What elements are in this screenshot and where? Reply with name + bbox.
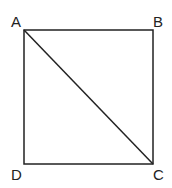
square-diagram: A B C D (0, 0, 172, 188)
diagonal-ac (24, 30, 153, 164)
vertex-label-a: A (11, 13, 21, 30)
vertex-label-c: C (153, 166, 164, 183)
vertex-label-d: D (11, 166, 22, 183)
vertex-label-b: B (153, 13, 163, 30)
